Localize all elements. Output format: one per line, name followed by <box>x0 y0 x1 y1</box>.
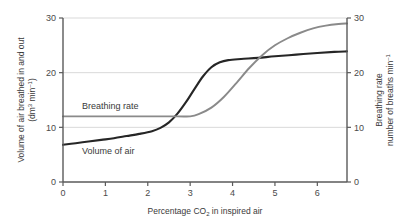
y-axis-right-title-line1: Breathing rate <box>374 73 384 127</box>
y-tick-label-left: 20 <box>46 68 56 78</box>
x-tick-label: 1 <box>103 188 108 198</box>
y-tick-label-left: 0 <box>51 177 56 187</box>
chart-figure: 0123456 0102030 0102030 Percentage CO2 i… <box>0 0 411 223</box>
y-tick-label-right: 20 <box>354 68 364 78</box>
x-tick-label: 6 <box>315 188 320 198</box>
y-tick-label-left: 30 <box>46 13 56 23</box>
x-axis-title: Percentage CO2 in inspired air <box>148 206 263 217</box>
y-tick-label-right: 0 <box>354 177 359 187</box>
x-tick-label: 0 <box>60 188 65 198</box>
series-label-volume-of-air: Volume of air <box>82 146 135 156</box>
y-axis-left-title-line1: Volume of air breathed in and out <box>16 37 26 163</box>
x-tick-label: 3 <box>188 188 193 198</box>
y-axis-right-title-line2: number of breaths min–1 <box>385 53 395 145</box>
x-tick-label: 4 <box>230 188 235 198</box>
x-tick-label: 2 <box>145 188 150 198</box>
y-tick-label-left: 10 <box>46 123 56 133</box>
y-tick-label-right: 30 <box>354 13 364 23</box>
line-chart: 0123456 0102030 0102030 Percentage CO2 i… <box>0 0 411 223</box>
y-tick-label-right: 10 <box>354 123 364 133</box>
x-tick-label: 5 <box>272 188 277 198</box>
series-label-breathing-rate: Breathing rate <box>82 101 139 111</box>
